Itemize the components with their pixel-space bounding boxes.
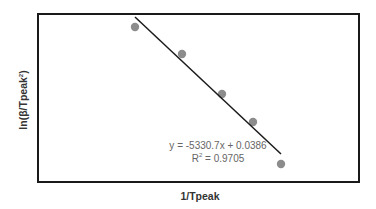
trendline-equation: y = -5330.7x + 0.0386 bbox=[169, 140, 266, 151]
data-point bbox=[178, 50, 186, 58]
data-point bbox=[218, 90, 226, 98]
chart-plot-area bbox=[0, 0, 376, 209]
data-point bbox=[277, 160, 285, 168]
x-axis-label: 1/Tpeak bbox=[180, 190, 219, 202]
data-point bbox=[131, 23, 139, 31]
y-axis-label: ln(β/Tpeak2) bbox=[17, 70, 29, 129]
r-squared-label: R2 = 0.9705 bbox=[192, 152, 245, 163]
